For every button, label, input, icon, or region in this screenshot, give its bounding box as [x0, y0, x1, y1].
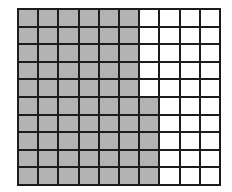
grid-cell-shaded: [19, 98, 37, 114]
grid-cell-unshaded: [201, 63, 219, 79]
grid-cell-shaded: [80, 10, 98, 26]
grid-cell-shaded: [19, 28, 37, 44]
grid-cell-shaded: [39, 116, 57, 132]
grid-cell-shaded: [100, 80, 118, 96]
grid-cell-shaded: [59, 98, 77, 114]
grid-cell-shaded: [59, 10, 77, 26]
grid-cell-shaded: [19, 116, 37, 132]
grid-cell-shaded: [39, 63, 57, 79]
grid-cell-shaded: [59, 151, 77, 167]
grid-cell-shaded: [100, 133, 118, 149]
grid-cell-shaded: [120, 10, 138, 26]
grid-cell-shaded: [120, 63, 138, 79]
grid-cell-shaded: [19, 45, 37, 61]
grid-cell-unshaded: [160, 80, 178, 96]
grid-cell-shaded: [80, 63, 98, 79]
grid-cell-shaded: [59, 116, 77, 132]
grid-cell-unshaded: [181, 116, 199, 132]
grid-cell-shaded: [120, 45, 138, 61]
grid-cell-shaded: [39, 28, 57, 44]
grid-cell-shaded: [100, 10, 118, 26]
grid-cell-shaded: [80, 151, 98, 167]
grid-cell-unshaded: [181, 28, 199, 44]
grid-cell-shaded: [140, 151, 158, 167]
grid-cell-shaded: [100, 151, 118, 167]
grid-cell-shaded: [140, 168, 158, 184]
grid-cell-unshaded: [181, 63, 199, 79]
grid-cell-shaded: [120, 168, 138, 184]
grid-cell-shaded: [19, 133, 37, 149]
grid-cell-unshaded: [201, 98, 219, 114]
grid-cell-unshaded: [201, 80, 219, 96]
grid-cell-shaded: [80, 168, 98, 184]
grid-cell-shaded: [100, 116, 118, 132]
grid-cell-unshaded: [160, 28, 178, 44]
grid-cell-unshaded: [181, 133, 199, 149]
hundred-grid: [17, 8, 221, 186]
grid-cell-unshaded: [201, 168, 219, 184]
grid-cell-shaded: [140, 116, 158, 132]
grid-cell-shaded: [39, 80, 57, 96]
grid-cell-unshaded: [140, 45, 158, 61]
grid-cell-unshaded: [181, 80, 199, 96]
grid-cell-unshaded: [160, 116, 178, 132]
grid-cell-unshaded: [181, 10, 199, 26]
diagram-canvas: [0, 0, 232, 192]
grid-cell-unshaded: [160, 45, 178, 61]
grid-cell-shaded: [39, 45, 57, 61]
grid-cell-unshaded: [181, 45, 199, 61]
grid-cell-shaded: [120, 133, 138, 149]
grid-cell-unshaded: [160, 168, 178, 184]
grid-cell-shaded: [19, 80, 37, 96]
grid-cell-shaded: [19, 10, 37, 26]
grid-cell-shaded: [100, 63, 118, 79]
grid-cell-shaded: [100, 98, 118, 114]
grid-cell-unshaded: [201, 116, 219, 132]
grid-cell-shaded: [39, 10, 57, 26]
grid-cell-shaded: [120, 98, 138, 114]
grid-cell-shaded: [120, 80, 138, 96]
grid-cell-shaded: [120, 151, 138, 167]
grid-cell-shaded: [59, 28, 77, 44]
grid-cell-shaded: [100, 168, 118, 184]
grid-cell-unshaded: [201, 45, 219, 61]
grid-cell-shaded: [39, 151, 57, 167]
grid-cell-unshaded: [140, 10, 158, 26]
grid-cell-shaded: [59, 63, 77, 79]
grid-cell-unshaded: [140, 80, 158, 96]
grid-cell-shaded: [39, 133, 57, 149]
grid-cell-unshaded: [201, 151, 219, 167]
grid-cell-shaded: [80, 80, 98, 96]
grid-cell-shaded: [19, 151, 37, 167]
grid-cell-unshaded: [181, 98, 199, 114]
grid-cell-unshaded: [201, 133, 219, 149]
grid-cell-shaded: [80, 98, 98, 114]
grid-cell-shaded: [120, 116, 138, 132]
grid-cell-shaded: [59, 80, 77, 96]
grid-cell-unshaded: [160, 151, 178, 167]
grid-cell-shaded: [140, 133, 158, 149]
grid-cell-unshaded: [181, 168, 199, 184]
grid-cell-shaded: [100, 45, 118, 61]
grid-cell-shaded: [120, 28, 138, 44]
grid-cell-shaded: [39, 168, 57, 184]
grid-cell-unshaded: [160, 133, 178, 149]
grid-cell-shaded: [100, 28, 118, 44]
grid-cell-shaded: [59, 45, 77, 61]
grid-cell-unshaded: [160, 10, 178, 26]
grid-cell-shaded: [80, 133, 98, 149]
grid-cell-unshaded: [140, 63, 158, 79]
grid-cell-unshaded: [201, 10, 219, 26]
grid-cell-unshaded: [160, 98, 178, 114]
grid-cell-unshaded: [181, 151, 199, 167]
grid-cell-unshaded: [140, 28, 158, 44]
grid-cell-shaded: [39, 98, 57, 114]
grid-cell-shaded: [59, 168, 77, 184]
grid-cell-shaded: [19, 168, 37, 184]
grid-cell-unshaded: [160, 63, 178, 79]
grid-cell-shaded: [140, 98, 158, 114]
grid-cell-shaded: [59, 133, 77, 149]
grid-cell-shaded: [19, 63, 37, 79]
grid-cell-shaded: [80, 28, 98, 44]
grid-cell-shaded: [80, 45, 98, 61]
